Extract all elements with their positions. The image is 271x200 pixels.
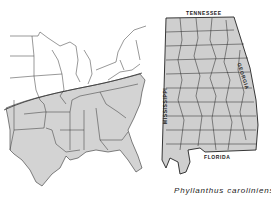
alabama-outline	[162, 17, 258, 174]
label-mississippi: MISSISSIPPI	[162, 88, 168, 124]
species-caption: Phyllanthus caroliniensis	[174, 186, 271, 195]
label-tennessee: TENNESSEE	[186, 10, 222, 16]
label-georgia: GEORGIA	[236, 62, 250, 90]
label-florida: FLORIDA	[204, 154, 230, 160]
eastern-us-map	[0, 0, 150, 190]
distribution-map-figure: TENNESSEE GEORGIA MISSISSIPPI FLORIDA Ph…	[0, 0, 271, 200]
